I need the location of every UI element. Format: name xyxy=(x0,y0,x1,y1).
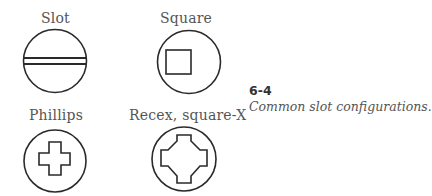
figure-caption: Common slot configurations. xyxy=(249,99,432,114)
slot-label: Slot xyxy=(41,10,70,26)
recex-label: Recex, square-X xyxy=(129,107,246,123)
square-label: Square xyxy=(160,10,212,26)
slot-head-icon xyxy=(24,30,87,93)
square-head-icon xyxy=(158,31,221,94)
phillips-head-icon xyxy=(24,130,86,192)
figure-number: 6-4 xyxy=(249,83,272,98)
phillips-label: Phillips xyxy=(29,107,83,123)
recex-head-icon xyxy=(152,127,216,191)
